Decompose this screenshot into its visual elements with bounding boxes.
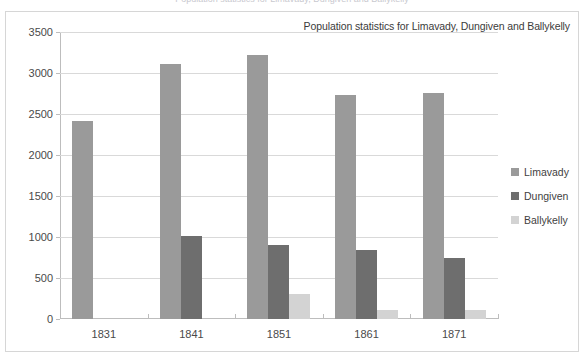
- bar[interactable]: [465, 310, 486, 319]
- legend-item-label: Limavady: [524, 166, 569, 178]
- chart-frame: Population statistics for Limavady, Dung…: [5, 11, 579, 352]
- x-axis-tick-label: 1851: [267, 328, 291, 340]
- legend-item-limavady[interactable]: Limavady: [511, 160, 581, 184]
- y-axis-tick-label: 3500: [29, 26, 53, 38]
- bar[interactable]: [356, 250, 377, 319]
- bar-group: [410, 32, 498, 319]
- bar[interactable]: [181, 236, 202, 319]
- y-axis-tick-label: 500: [35, 272, 53, 284]
- chart-screenshot: Population statistics for Limavady, Dung…: [0, 0, 584, 363]
- plot-area: 0500100015002000250030003500183118411851…: [60, 32, 498, 319]
- bar-group: [60, 32, 148, 319]
- bar-group: [148, 32, 236, 319]
- legend-item-label: Ballykelly: [524, 214, 568, 226]
- bar[interactable]: [444, 258, 465, 320]
- bar[interactable]: [423, 93, 444, 319]
- chart-legend: LimavadyDungivenBallykelly: [511, 160, 581, 232]
- legend-item-dungiven[interactable]: Dungiven: [511, 184, 581, 208]
- bar-group: [235, 32, 323, 319]
- x-axis-group-separator: [498, 314, 499, 319]
- bar[interactable]: [335, 95, 356, 319]
- y-axis-tick-label: 1000: [29, 231, 53, 243]
- bar[interactable]: [268, 245, 289, 319]
- clipped-header-text: Population statistics for Limavady, Dung…: [0, 0, 584, 10]
- bar[interactable]: [377, 310, 398, 319]
- bar[interactable]: [289, 294, 310, 319]
- x-axis-tick-label: 1861: [354, 328, 378, 340]
- x-axis-tick-label: 1831: [92, 328, 116, 340]
- x-axis-group-separator: [235, 314, 236, 319]
- y-axis-tick-label: 2500: [29, 108, 53, 120]
- y-axis-tick-label: 0: [47, 313, 53, 325]
- x-axis-group-separator: [148, 314, 149, 319]
- x-axis-group-separator: [410, 314, 411, 319]
- x-axis-tick-label: 1841: [179, 328, 203, 340]
- legend-item-label: Dungiven: [524, 190, 568, 202]
- bar[interactable]: [160, 64, 181, 319]
- bar[interactable]: [247, 55, 268, 319]
- legend-swatch-icon: [511, 216, 519, 224]
- x-axis-group-separator: [323, 314, 324, 319]
- y-axis-tick-label: 2000: [29, 149, 53, 161]
- y-axis-tick-label: 1500: [29, 190, 53, 202]
- y-axis-tick-label: 3000: [29, 67, 53, 79]
- bar-group: [323, 32, 411, 319]
- legend-item-ballykelly[interactable]: Ballykelly: [511, 208, 581, 232]
- legend-swatch-icon: [511, 192, 519, 200]
- clipped-header-label: Population statistics for Limavady, Dung…: [175, 0, 408, 4]
- chart-title: Population statistics for Limavady, Dung…: [304, 20, 570, 32]
- bar[interactable]: [72, 121, 93, 319]
- legend-swatch-icon: [511, 168, 519, 176]
- x-axis-tick-label: 1871: [442, 328, 466, 340]
